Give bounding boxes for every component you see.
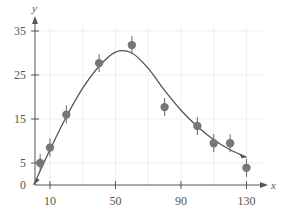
data-point [62,110,70,118]
x-tick-label: 130 [237,194,255,208]
data-point [46,143,54,151]
y-axis-label: y [31,2,37,14]
y-tick-label: 25 [14,68,26,82]
x-axis-label: x [270,179,276,191]
data-point [128,41,136,49]
y-tick-label: 15 [14,112,26,126]
y-axis-arrow-icon [32,16,38,24]
x-axis-arrow-icon [260,182,268,188]
scatter-chart: x y 105090130 05152535 [0,0,282,219]
x-tick-label: 50 [109,194,121,208]
y-tick-label: 0 [20,178,26,192]
data-point [36,159,44,167]
curve-end-arrow-icon [239,153,246,158]
y-tick-label: 35 [14,24,26,38]
data-points [35,36,251,184]
data-point [226,139,234,147]
x-tick-label: 10 [44,194,56,208]
data-point [160,103,168,111]
grid [34,27,263,185]
y-tick-label: 5 [20,156,26,170]
data-point [95,59,103,67]
data-point [193,122,201,130]
x-tick-label: 90 [175,194,187,208]
data-point [210,139,218,147]
data-point [242,164,250,172]
